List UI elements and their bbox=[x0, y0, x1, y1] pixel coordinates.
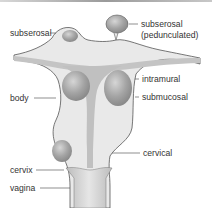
fibroid-intramural bbox=[104, 70, 132, 106]
fibroid-cervical bbox=[52, 140, 72, 162]
label-vagina: vagina bbox=[10, 183, 35, 193]
uterus-body bbox=[14, 27, 200, 208]
label-subserosal: subserosal bbox=[10, 28, 52, 38]
label-subserosal-pedunculated: subserosal bbox=[141, 19, 183, 29]
fibroid-body bbox=[62, 71, 90, 101]
fibroid-pedunculated bbox=[106, 15, 128, 33]
label-cervical: cervical bbox=[143, 148, 172, 158]
label-submucosal: submucosal bbox=[142, 92, 188, 102]
fibroid-subserosal bbox=[62, 30, 78, 42]
label-intramural: intramural bbox=[142, 74, 180, 84]
label-body: body bbox=[10, 93, 29, 103]
label-cervix: cervix bbox=[10, 165, 32, 175]
label-pedunculated: (pedunculated) bbox=[141, 30, 198, 40]
